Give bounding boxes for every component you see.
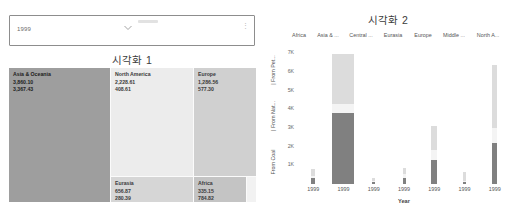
tile-value-1: 3,860.10 [13, 79, 107, 87]
treemap-tile-remainder [247, 177, 256, 202]
y-tick-7K: 7K [288, 50, 294, 55]
tile-label: North America [115, 71, 190, 79]
viz2-title: 시각화 2 [264, 12, 512, 27]
bar-segment-from-nat-[interactable] [431, 150, 437, 160]
bar-series-container[interactable] [298, 44, 510, 184]
x-tick-label-0: 1999 [307, 186, 319, 192]
treemap-tile-africa[interactable]: Africa 335.15 784.82 [194, 177, 246, 202]
bar-segment-from-coal[interactable] [372, 182, 375, 184]
bar-group-3[interactable] [403, 168, 406, 184]
bar-segment-from-pet-[interactable] [332, 54, 354, 104]
treemap-tile-europe[interactable]: Europe 1,286.56 577.30 [194, 68, 256, 176]
tile-value-1: 2,228.61 [115, 79, 190, 87]
y-tick-4K: 4K [288, 106, 294, 111]
y-tick-3K: 3K [288, 125, 294, 130]
tile-value-1: 656.87 [115, 188, 190, 196]
legend-item-3[interactable]: Eurasia [378, 32, 408, 38]
y-tick-2K: 2K [288, 144, 294, 149]
bar-chart[interactable]: From Coal | From Nat... | From Pet... 1K… [270, 44, 512, 209]
bar-segment-from-coal[interactable] [332, 113, 354, 184]
x-tick-label-6: 1999 [489, 186, 501, 192]
tile-value-1: 335.15 [198, 188, 243, 196]
x-tick-label-2: 1999 [368, 186, 380, 192]
y-axis-title-petroleum: | From Pet... [270, 0, 276, 140]
bar-group-5[interactable] [463, 172, 466, 184]
tile-label: Europe [198, 71, 253, 79]
treemap-tile-eurasia[interactable]: Eurasia 656.87 280.39 [111, 177, 193, 202]
bar-segment-from-coal[interactable] [463, 182, 466, 184]
legend-item-0[interactable]: Africa [286, 32, 312, 38]
tile-value-2: 3,367.43 [13, 86, 107, 94]
chevron-down-icon[interactable] [124, 25, 132, 31]
tile-value-2: 784.82 [198, 195, 243, 202]
legend-item-1[interactable]: Asia & ... [312, 32, 344, 38]
y-tick-1K: 1K [288, 162, 294, 167]
bar-segment-from-nat-[interactable] [332, 104, 354, 113]
legend-item-6[interactable]: North A... [470, 32, 506, 38]
tile-value-2: 577.30 [198, 86, 253, 94]
ellipsis-icon[interactable]: ⋮ [242, 22, 249, 29]
bar-segment-from-pet-[interactable] [463, 172, 466, 181]
dashboard-root: 1999 ⋮ 시각화 1 Asia & Oceania 3,860.10 3,3… [0, 0, 512, 217]
y-tick-5K: 5K [288, 88, 294, 93]
bar-group-1[interactable] [332, 54, 354, 184]
bar-group-0[interactable] [311, 169, 315, 184]
year-filter-value: 1999 [17, 26, 31, 32]
bar-group-4[interactable] [431, 126, 437, 184]
y-axis-titles: From Coal | From Nat... | From Pet... [270, 44, 281, 184]
viz1-title: 시각화 1 [0, 52, 264, 67]
treemap-chart[interactable]: Asia & Oceania 3,860.10 3,367.43 North A… [9, 68, 256, 202]
filter-placeholder-bar [138, 20, 158, 23]
bar-segment-from-coal[interactable] [311, 178, 315, 184]
legend-item-2[interactable]: Central ... [344, 32, 378, 38]
bar-segment-from-coal[interactable] [431, 160, 437, 184]
x-tick-label-4: 1999 [428, 186, 440, 192]
x-tick-label-1: 1999 [337, 186, 349, 192]
tile-label: Asia & Oceania [13, 71, 107, 79]
tile-value-2: 280.39 [115, 195, 190, 202]
bar-group-6[interactable] [492, 65, 497, 184]
bar-segment-from-coal[interactable] [492, 143, 497, 184]
bar-segment-from-coal[interactable] [403, 178, 406, 184]
bar-segment-from-nat-[interactable] [492, 128, 497, 143]
legend-item-4[interactable]: Europe [408, 32, 438, 38]
legend-item-5[interactable]: Middle ... [438, 32, 470, 38]
tile-label: Africa [198, 180, 243, 188]
y-axis-ticks: 1K2K3K4K5K6K7K [282, 44, 296, 184]
right-panel: 시각화 2 AfricaAsia & ...Central ...Eurasia… [264, 0, 512, 217]
year-filter-dropdown[interactable]: 1999 ⋮ [9, 15, 255, 46]
treemap-tile-asia-oceania[interactable]: Asia & Oceania 3,860.10 3,367.43 [9, 68, 110, 202]
tile-value-2: 408.61 [115, 86, 190, 94]
x-tick-label-5: 1999 [459, 186, 471, 192]
bar-segment-from-pet-[interactable] [492, 65, 497, 128]
treemap-tile-north-america[interactable]: North America 2,228.61 408.61 [111, 68, 193, 176]
y-tick-6K: 6K [288, 69, 294, 74]
bar-group-2[interactable] [372, 178, 375, 184]
x-axis-title: Year [298, 198, 510, 204]
x-axis-tick-labels: 1999199919991999199919991999 [298, 186, 510, 196]
tile-label: Eurasia [115, 180, 190, 188]
x-tick-label-3: 1999 [398, 186, 410, 192]
left-panel: 1999 ⋮ 시각화 1 Asia & Oceania 3,860.10 3,3… [0, 0, 264, 217]
tile-value-1: 1,286.56 [198, 79, 253, 87]
bar-segment-from-pet-[interactable] [431, 126, 437, 150]
chart-legend[interactable]: AfricaAsia & ...Central ...EurasiaEurope… [286, 30, 512, 40]
